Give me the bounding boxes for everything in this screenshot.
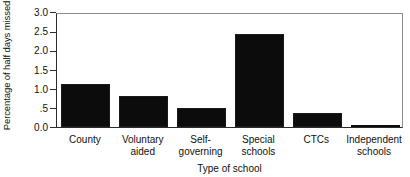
bar xyxy=(119,96,168,127)
x-tick-label: CTCs xyxy=(287,134,345,146)
x-tick-label: Voluntary aided xyxy=(114,134,172,157)
x-axis-title: Type of school xyxy=(56,163,403,174)
y-tick-label: .5 xyxy=(0,104,48,114)
bar xyxy=(177,108,226,127)
plot-area xyxy=(56,13,403,128)
y-tick-label: 2.0 xyxy=(0,46,48,56)
y-tick-label: 1.0 xyxy=(0,85,48,95)
y-tick-label: 1.5 xyxy=(0,66,48,76)
y-tick-label: 0.0 xyxy=(0,123,48,133)
bar xyxy=(293,113,342,127)
bar xyxy=(351,125,400,127)
bar xyxy=(61,84,110,127)
x-tick-label: County xyxy=(56,134,114,146)
x-tick-label: Self- governing xyxy=(172,134,230,157)
y-tick-label: 3.0 xyxy=(0,8,48,18)
x-tick-label: Special schools xyxy=(230,134,288,157)
bar-chart: Percentage of half days missed 3.02.52.0… xyxy=(0,0,410,177)
y-tick-label: 2.5 xyxy=(0,27,48,37)
x-tick-label: Independent schools xyxy=(345,134,403,157)
bar xyxy=(235,34,284,127)
